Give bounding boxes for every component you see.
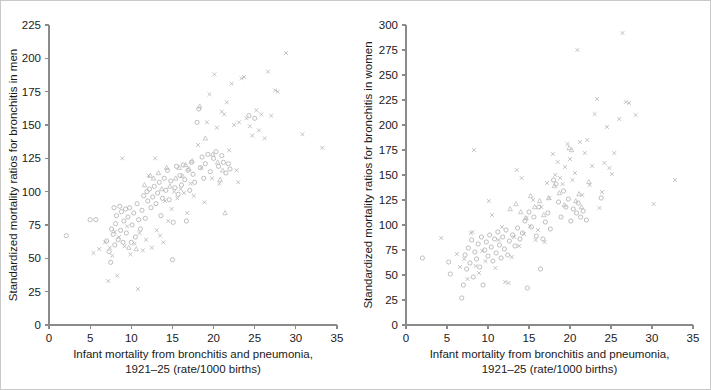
y-tick-label: 225 xyxy=(379,94,398,106)
figure-container: 025507510012515017520022505101520253035S… xyxy=(0,0,711,390)
x-tick-label: 25 xyxy=(605,332,618,344)
data-point-triangle xyxy=(579,205,583,209)
data-point-cross xyxy=(257,128,261,132)
data-point-circle xyxy=(124,231,128,235)
data-point-circle xyxy=(188,188,192,192)
data-point-circle xyxy=(228,167,232,171)
data-point-triangle xyxy=(587,180,591,184)
data-point-cross xyxy=(600,190,604,194)
x-tick-label: 15 xyxy=(523,332,536,344)
data-point-circle xyxy=(143,216,147,220)
data-point-cross xyxy=(520,176,524,180)
data-point-cross xyxy=(673,178,677,182)
data-point-cross xyxy=(144,238,148,242)
data-point-circle xyxy=(109,260,113,264)
x-tick-label: 5 xyxy=(444,332,450,344)
y-axis-title: Standardized mortality ratios for bronch… xyxy=(7,49,19,301)
data-point-cross xyxy=(138,231,142,235)
data-point-circle xyxy=(546,211,550,215)
data-point-cross xyxy=(212,72,216,76)
data-point-circle xyxy=(518,237,522,241)
data-point-triangle xyxy=(557,191,561,195)
data-point-cross xyxy=(129,252,133,256)
data-point-cross xyxy=(553,173,557,177)
data-point-cross xyxy=(578,140,582,144)
y-tick-label: 25 xyxy=(385,294,398,306)
data-point-cross xyxy=(539,205,543,209)
x-tick-label: 5 xyxy=(87,332,93,344)
data-point-circle xyxy=(471,275,475,279)
scatter-plot-women: 0255075100125150175200225250275300051015… xyxy=(356,1,711,390)
data-point-circle xyxy=(486,254,490,258)
data-point-circle xyxy=(202,176,206,180)
data-point-circle xyxy=(114,222,118,226)
y-tick-label: 175 xyxy=(379,144,398,156)
data-point-circle xyxy=(198,166,202,170)
data-point-cross xyxy=(182,191,186,195)
x-tick-label: 35 xyxy=(331,332,344,344)
data-point-circle xyxy=(142,194,146,198)
data-point-circle xyxy=(473,250,477,254)
data-point-circle xyxy=(94,218,98,222)
data-point-cross xyxy=(196,143,200,147)
data-point-triangle xyxy=(574,199,578,203)
data-point-cross xyxy=(175,196,179,200)
data-point-cross xyxy=(166,219,170,223)
data-point-circle xyxy=(538,267,542,271)
data-point-circle xyxy=(420,256,424,260)
data-point-circle xyxy=(532,215,536,219)
data-point-cross xyxy=(153,156,157,160)
data-point-circle xyxy=(138,227,142,231)
data-point-circle xyxy=(534,234,538,238)
data-point-circle xyxy=(559,215,563,219)
data-point-cross xyxy=(627,101,631,105)
data-point-cross xyxy=(237,120,241,124)
x-tick-label: 20 xyxy=(207,332,220,344)
data-point-cross xyxy=(497,238,501,242)
scatter-plot-men: 025507510012515017520022505101520253035S… xyxy=(1,1,356,390)
data-point-circle xyxy=(556,200,560,204)
data-point-circle xyxy=(208,170,212,174)
data-point-cross xyxy=(652,202,656,206)
data-point-circle xyxy=(484,240,488,244)
data-point-circle xyxy=(109,227,113,231)
data-point-circle xyxy=(200,155,204,159)
data-point-circle xyxy=(571,207,575,211)
data-point-circle xyxy=(566,197,570,201)
data-point-cross xyxy=(225,100,229,104)
data-point-cross xyxy=(235,168,239,172)
data-point-circle xyxy=(118,228,122,232)
y-tick-label: 125 xyxy=(379,194,398,206)
y-tick-label: 50 xyxy=(28,252,41,264)
data-point-circle xyxy=(479,235,483,239)
data-point-circle xyxy=(154,202,158,206)
data-point-circle xyxy=(478,265,482,269)
data-point-cross xyxy=(462,257,466,261)
data-point-cross xyxy=(617,117,621,121)
data-point-cross xyxy=(203,200,207,204)
data-point-cross xyxy=(110,254,114,258)
x-axis-title-line1: Infant mortality from bronchitis and pne… xyxy=(430,348,670,360)
data-point-cross xyxy=(245,116,249,120)
x-tick-label: 10 xyxy=(482,332,495,344)
data-point-circle xyxy=(569,219,573,223)
data-point-circle xyxy=(525,286,529,290)
x-tick-label: 30 xyxy=(289,332,302,344)
data-point-cross xyxy=(259,112,263,116)
data-point-cross xyxy=(605,125,609,129)
data-point-circle xyxy=(481,283,485,287)
x-tick-label: 25 xyxy=(248,332,261,344)
data-point-circle xyxy=(574,211,578,215)
data-point-circle xyxy=(504,228,508,232)
data-point-circle xyxy=(206,152,210,156)
data-point-circle xyxy=(122,219,126,223)
data-point-triangle xyxy=(215,160,219,164)
data-point-cross xyxy=(493,266,497,270)
data-point-triangle xyxy=(220,168,224,172)
data-point-circle xyxy=(507,239,511,243)
data-point-cross xyxy=(507,281,511,285)
data-point-circle xyxy=(465,267,469,271)
y-tick-label: 0 xyxy=(35,319,41,331)
data-point-cross xyxy=(92,251,96,255)
data-point-cross xyxy=(500,225,504,229)
